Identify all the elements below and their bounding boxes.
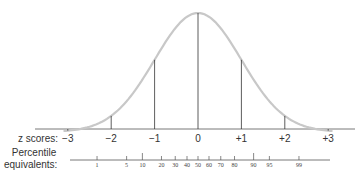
z-score-tick-label: −3 [62,133,73,144]
percentile-tick-label: 20 [158,162,164,168]
percentile-label-line2: equivalents: [4,159,57,170]
percentile-tick-label: 70 [218,162,224,168]
z-score-lines [68,13,328,131]
z-score-tick-label: −2 [105,133,116,144]
percentile-ticks [97,153,299,160]
percentile-tick-label: 5 [125,162,128,168]
percentile-tick-label: 40 [184,162,190,168]
z-score-tick-label: +2 [279,133,290,144]
percentile-tick-label: 1 [96,162,99,168]
percentile-tick-label: 50 [195,162,201,168]
percentile-tick-label: 30 [172,162,178,168]
percentile-tick-label: 95 [266,162,272,168]
percentile-tick-label: 80 [232,162,238,168]
z-score-tick-label: +1 [236,133,247,144]
z-score-tick-label: −1 [149,133,160,144]
percentile-tick-label: 60 [206,162,212,168]
z-score-tick-label: +3 [322,133,333,144]
percentile-tick-label: 90 [251,162,257,168]
percentile-tick-label: 99 [296,162,302,168]
z-scores-label: z scores: [18,133,58,144]
percentile-label-line1: Percentile [11,147,57,158]
z-score-tick-label: 0 [195,133,201,144]
percentile-tick-label: 10 [139,162,145,168]
